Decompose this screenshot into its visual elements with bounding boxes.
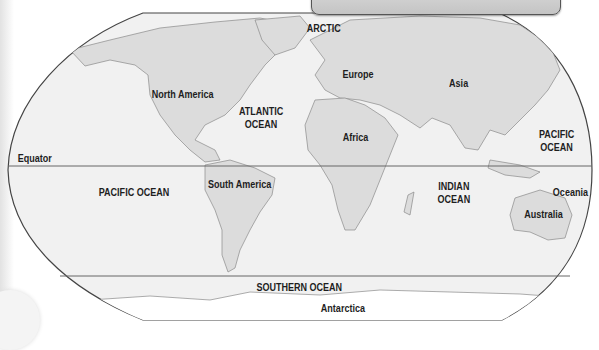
label-arctic: ARCTIC — [307, 22, 341, 35]
label-south-america: South America — [208, 178, 271, 191]
label-oceania: Oceania — [553, 186, 588, 199]
label-pacific-east-line1: PACIFIC — [539, 128, 574, 140]
label-southern-ocean: SOUTHERN OCEAN — [256, 281, 342, 294]
label-equator: Equator — [18, 152, 52, 165]
label-pacific-ocean-east: PACIFIC OCEAN — [539, 128, 574, 154]
label-atlantic-line1: ATLANTIC — [239, 105, 283, 117]
label-europe: Europe — [342, 68, 373, 81]
header-box — [311, 0, 561, 15]
label-atlantic-line2: OCEAN — [245, 118, 278, 130]
label-africa: Africa — [343, 131, 369, 144]
label-indian-ocean: INDIAN OCEAN — [438, 180, 471, 206]
label-north-america: North America — [152, 88, 214, 101]
label-indian-line2: OCEAN — [438, 193, 471, 205]
label-australia: Australia — [524, 208, 563, 221]
label-asia: Asia — [449, 77, 468, 90]
label-pacific-ocean-west: PACIFIC OCEAN — [99, 186, 169, 199]
label-indian-line1: INDIAN — [438, 180, 469, 192]
label-antarctica: Antarctica — [321, 302, 365, 315]
label-atlantic-ocean: ATLANTIC OCEAN — [239, 105, 283, 131]
label-pacific-east-line2: OCEAN — [540, 141, 573, 153]
